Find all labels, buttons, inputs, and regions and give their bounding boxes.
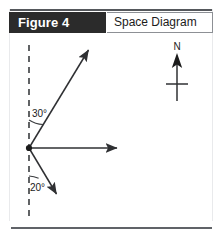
lower-angle-arc (29, 176, 39, 178)
upper-ray (29, 50, 89, 148)
space-diagram: 30° 20° N (0, 0, 220, 238)
north-arrow-symbol: N (166, 41, 188, 101)
upper-angle-arc (29, 120, 43, 125)
vertex-point (26, 145, 32, 151)
north-label: N (173, 41, 180, 52)
upper-angle-label: 30° (32, 108, 47, 119)
lower-angle-label: 20° (30, 182, 45, 193)
figure-root: Figure 4 Space Diagram 30° 20° N (0, 0, 220, 238)
frame-bottom-rule (11, 227, 212, 229)
